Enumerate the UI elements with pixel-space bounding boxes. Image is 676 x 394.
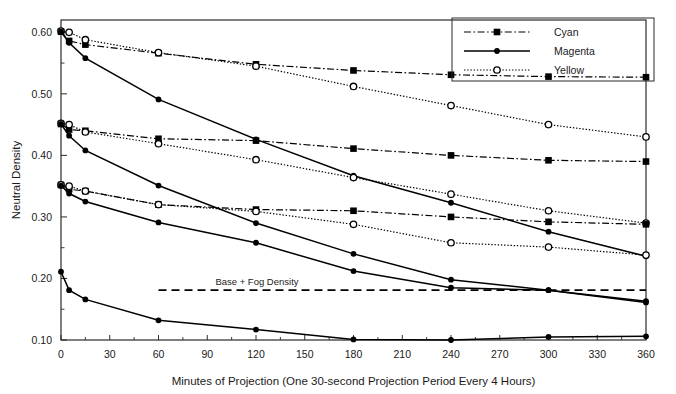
marker-filled-circle (58, 29, 64, 35)
x-tick-label: 330 (588, 348, 606, 360)
marker-filled-circle (253, 240, 259, 246)
y-tick-label: 0.20 (32, 272, 53, 284)
legend-marker-filled-circle (494, 48, 500, 54)
marker-open-circle (253, 208, 259, 214)
marker-open-circle (448, 191, 454, 197)
series-cyan-0-45 (58, 121, 650, 165)
marker-filled-circle (156, 96, 162, 102)
marker-filled-square (545, 157, 552, 164)
marker-open-circle (643, 252, 649, 258)
series-line (61, 185, 646, 224)
x-tick-label: 210 (393, 348, 411, 360)
marker-open-circle (545, 208, 551, 214)
marker-filled-circle (546, 287, 552, 293)
marker-filled-circle (156, 220, 162, 226)
marker-filled-circle (82, 55, 88, 61)
marker-filled-square (643, 158, 650, 165)
neutral-density-chart: 03060901201501802102402703003303600.100.… (0, 0, 676, 394)
marker-open-circle (82, 188, 88, 194)
y-axis-title: Neutral Density (10, 140, 22, 219)
marker-filled-circle (66, 40, 72, 46)
x-tick-label: 90 (201, 348, 213, 360)
legend-label-yellow: Yellow (554, 64, 584, 76)
marker-filled-square (448, 71, 455, 78)
x-tick-label: 360 (637, 348, 655, 360)
marker-filled-circle (253, 327, 259, 333)
series-yellow-0-35 (58, 182, 649, 259)
y-tick-label: 0.10 (32, 334, 53, 346)
x-tick-label: 0 (58, 348, 64, 360)
legend-label-magenta: Magenta (554, 45, 595, 57)
marker-filled-circle (253, 220, 259, 226)
y-tick-label: 0.30 (32, 211, 53, 223)
marker-filled-circle (448, 200, 454, 206)
marker-open-circle (82, 129, 88, 135)
marker-open-circle (155, 49, 161, 55)
marker-open-circle (448, 240, 454, 246)
marker-filled-circle (643, 298, 649, 304)
marker-filled-circle (643, 333, 649, 339)
marker-open-circle (66, 29, 72, 35)
marker-filled-circle (156, 317, 162, 323)
base-fog-density-label: Base + Fog Density (215, 276, 298, 287)
y-tick-label: 0.40 (32, 149, 53, 161)
marker-filled-square (545, 219, 552, 226)
marker-open-circle (545, 121, 551, 127)
marker-filled-square (350, 207, 357, 214)
marker-filled-circle (448, 337, 454, 343)
chart-canvas: 03060901201501802102402703003303600.100.… (0, 0, 676, 394)
marker-filled-circle (82, 199, 88, 205)
marker-filled-circle (448, 285, 454, 291)
marker-filled-square (643, 74, 650, 81)
y-tick-label: 0.50 (32, 88, 53, 100)
series-line (61, 124, 646, 162)
marker-filled-circle (66, 287, 72, 293)
marker-open-circle (155, 201, 161, 207)
marker-open-circle (350, 221, 356, 227)
marker-filled-square (643, 221, 650, 228)
marker-filled-circle (66, 133, 72, 139)
marker-filled-circle (82, 148, 88, 154)
marker-filled-circle (82, 296, 88, 302)
marker-open-circle (82, 36, 88, 42)
marker-filled-circle (58, 183, 64, 189)
x-tick-label: 180 (345, 348, 363, 360)
marker-filled-circle (351, 268, 357, 274)
marker-open-circle (350, 174, 356, 180)
marker-open-circle (253, 156, 259, 162)
marker-filled-circle (448, 277, 454, 283)
marker-filled-square (253, 137, 260, 144)
legend-box (452, 18, 654, 81)
legend-label-cyan: Cyan (554, 26, 579, 38)
marker-filled-circle (351, 251, 357, 257)
marker-filled-circle (156, 183, 162, 189)
marker-filled-circle (546, 334, 552, 340)
marker-open-circle (253, 63, 259, 69)
x-tick-label: 150 (296, 348, 314, 360)
x-tick-label: 120 (247, 348, 265, 360)
marker-filled-square (448, 152, 455, 159)
x-tick-label: 300 (540, 348, 558, 360)
marker-filled-square (350, 67, 357, 74)
marker-open-circle (66, 121, 72, 127)
x-tick-label: 240 (442, 348, 460, 360)
legend-marker-open-circle (494, 67, 500, 73)
legend-marker-filled-square (494, 29, 501, 36)
marker-open-circle (643, 134, 649, 140)
marker-open-circle (448, 102, 454, 108)
x-tick-label: 270 (491, 348, 509, 360)
marker-filled-circle (351, 336, 357, 342)
marker-open-circle (545, 244, 551, 250)
x-axis-title: Minutes of Projection (One 30-second Pro… (172, 375, 536, 387)
series-magenta-base (58, 269, 649, 343)
marker-filled-circle (58, 121, 64, 127)
x-tick-label: 30 (104, 348, 116, 360)
marker-filled-square (545, 73, 552, 80)
marker-open-circle (66, 183, 72, 189)
y-tick-label: 0.60 (32, 26, 53, 38)
marker-filled-circle (58, 269, 64, 275)
marker-filled-square (350, 145, 357, 152)
marker-filled-circle (66, 191, 72, 197)
marker-open-circle (155, 140, 161, 146)
marker-filled-circle (546, 229, 552, 235)
